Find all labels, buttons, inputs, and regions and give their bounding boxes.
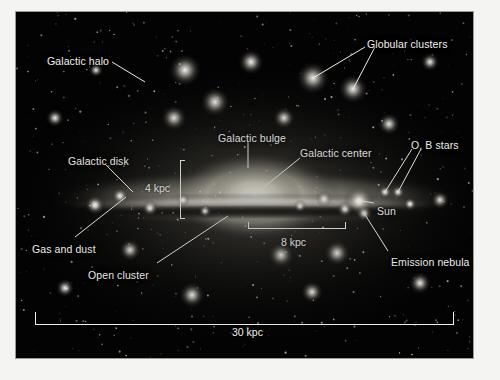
leader-ob-star-a <box>385 149 412 192</box>
label-galactic-center: Galactic center <box>300 147 372 159</box>
leader-emission-nebula <box>364 213 388 251</box>
scale-label-galaxy-width: 30 kpc <box>232 326 263 338</box>
label-galactic-bulge: Galactic bulge <box>218 132 286 144</box>
label-gas-and-dust: Gas and dust <box>32 243 96 255</box>
bracket-4kpc <box>180 160 185 218</box>
leader-globular-left <box>313 47 365 78</box>
label-ob-stars: O, B stars <box>411 139 459 151</box>
leader-sun <box>362 201 374 203</box>
label-galactic-halo: Galactic halo <box>47 55 109 67</box>
leader-globular-right <box>353 47 375 89</box>
scale-label-sun-distance: 8 kpc <box>281 236 306 248</box>
label-galactic-disk: Galactic disk <box>68 155 129 167</box>
scale-label-height-4kpc: 4 kpc <box>145 182 170 194</box>
label-sun: Sun <box>377 205 396 217</box>
label-emission-nebula: Emission nebula <box>391 256 470 268</box>
figure-root: Galactic haloGlobular clustersGalactic b… <box>0 0 500 380</box>
leader-open-cluster <box>157 216 228 263</box>
leader-gas-and-dust <box>75 197 126 237</box>
label-globular-clusters: Globular clusters <box>367 38 447 50</box>
bracket-8kpc <box>248 222 345 228</box>
leader-galactic-center <box>253 158 300 196</box>
label-open-cluster: Open cluster <box>88 269 149 281</box>
galaxy-photographic-plate: Galactic haloGlobular clustersGalactic b… <box>16 12 473 358</box>
leader-galactic-disk <box>106 165 133 192</box>
scale-bar-30kpc <box>35 312 453 324</box>
leader-ob-star-b <box>398 149 421 192</box>
leader-galactic-halo <box>112 62 145 82</box>
